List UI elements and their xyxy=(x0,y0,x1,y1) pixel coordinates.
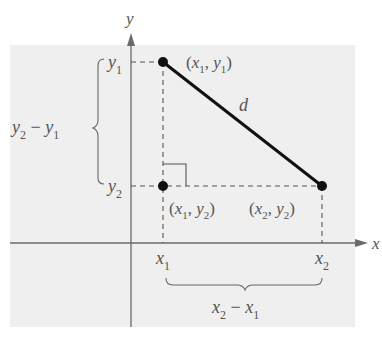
distance-formula-diagram: y x d (x1, y1) (x1, y2) (x2, y2) y1 y2 x… xyxy=(0,0,382,343)
y-axis-arrow-icon xyxy=(127,33,135,46)
point-x1-y1 xyxy=(158,57,168,67)
segment-d-label: d xyxy=(239,95,249,115)
x-axis-label: x xyxy=(371,234,380,253)
point-x1-y2 xyxy=(158,181,168,191)
y-axis-label: y xyxy=(124,9,134,28)
x-axis-arrow-icon xyxy=(355,239,368,247)
point-x2-y2 xyxy=(317,181,327,191)
